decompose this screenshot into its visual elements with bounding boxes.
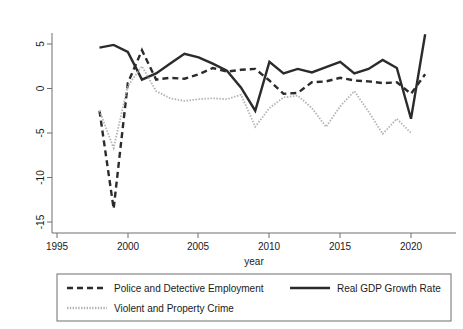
legend-item-gdp: Real GDP Growth Rate bbox=[290, 283, 441, 294]
legend-item-crime: Violent and Property Crime bbox=[67, 303, 234, 314]
x-tick-label: 2005 bbox=[187, 241, 210, 252]
plot-area bbox=[57, 33, 451, 233]
y-axis-tick-labels: 5 0 -5 -10 -15 bbox=[35, 41, 46, 229]
legend-label-police: Police and Detective Employment bbox=[114, 283, 264, 294]
x-axis-tick-labels: 1995 2000 2005 2010 2015 2020 bbox=[46, 241, 423, 252]
legend-label-crime: Violent and Property Crime bbox=[114, 303, 234, 314]
legend-label-gdp: Real GDP Growth Rate bbox=[337, 283, 441, 294]
y-tick-label: -15 bbox=[35, 214, 46, 229]
legend-item-police: Police and Detective Employment bbox=[67, 283, 264, 294]
x-tick-label: 2015 bbox=[329, 241, 352, 252]
x-tick-label: 2010 bbox=[258, 241, 281, 252]
chart-figure: 5 0 -5 -10 -15 1995 2000 2005 2010 2015 … bbox=[0, 0, 463, 329]
y-tick-label: 5 bbox=[35, 41, 46, 47]
x-tick-label: 1995 bbox=[46, 241, 69, 252]
y-tick-label: -10 bbox=[35, 170, 46, 185]
x-tick-label: 2000 bbox=[117, 241, 140, 252]
y-tick-label: -5 bbox=[35, 128, 46, 137]
x-axis-ticks bbox=[57, 233, 411, 238]
x-axis-title: year bbox=[244, 256, 264, 267]
line-chart: 5 0 -5 -10 -15 1995 2000 2005 2010 2015 … bbox=[0, 0, 463, 329]
x-tick-label: 2020 bbox=[400, 241, 423, 252]
y-axis-ticks bbox=[47, 44, 52, 222]
y-tick-label: 0 bbox=[35, 85, 46, 91]
